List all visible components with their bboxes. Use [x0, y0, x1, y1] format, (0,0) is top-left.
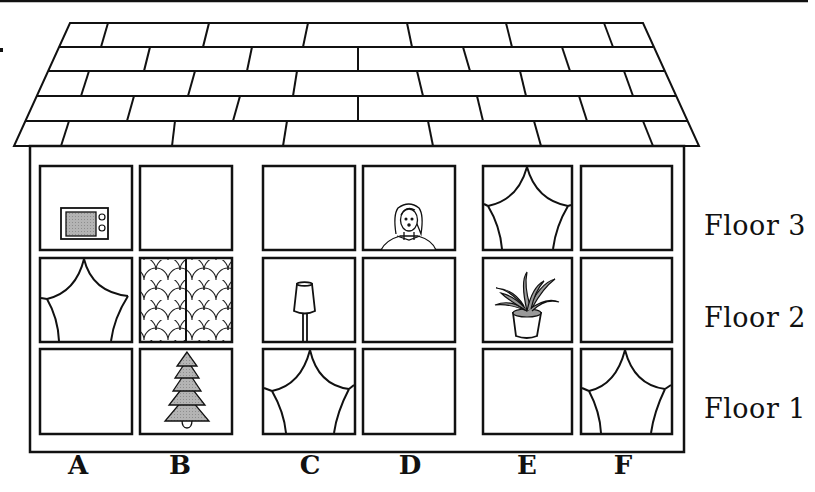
floor-label-2: Floor 2 [704, 302, 806, 333]
column-label-f: F [603, 450, 643, 480]
window-d1 [363, 349, 455, 434]
window-f2 [581, 258, 672, 342]
column-label-e: E [507, 450, 547, 480]
window-f3 [581, 166, 672, 250]
window-d2 [363, 258, 455, 342]
floor-label-3: Floor 3 [704, 210, 806, 241]
microwave-icon [61, 208, 108, 239]
column-label-d: D [390, 450, 430, 480]
window-b3 [140, 166, 232, 250]
window-c3 [263, 166, 355, 250]
window-c1 [263, 349, 355, 434]
column-label-a: A [58, 450, 98, 480]
window-a2 [40, 258, 132, 342]
window-a1 [40, 349, 132, 434]
window-f1 [581, 349, 672, 434]
column-label-b: B [160, 450, 200, 480]
house-diagram [0, 0, 815, 492]
window-e3 [483, 166, 572, 250]
window-e1 [483, 349, 572, 434]
column-label-c: C [290, 450, 330, 480]
roof [14, 23, 699, 146]
edge-mark [0, 48, 3, 52]
floor-label-1: Floor 1 [704, 393, 806, 424]
